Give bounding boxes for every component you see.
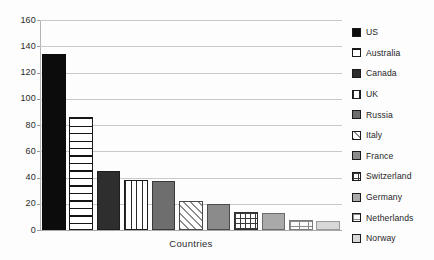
- plot-area: [40, 20, 342, 230]
- bar-canada[interactable]: [97, 171, 121, 230]
- legend-label: Switzerland: [366, 171, 412, 181]
- y-axis-ticks: 160140120100806040200: [0, 0, 36, 260]
- legend-item-uk[interactable]: UK: [352, 84, 434, 105]
- legend-swatch-icon-us: [352, 28, 361, 37]
- bar-netherlands[interactable]: [289, 220, 313, 231]
- legend-item-italy[interactable]: Italy: [352, 125, 434, 146]
- legend-swatch-icon-switzerland: [352, 172, 361, 181]
- legend-item-canada[interactable]: Canada: [352, 63, 434, 84]
- bar-chart: 160140120100806040200 Countries USAustra…: [0, 0, 434, 260]
- y-tick-label-40: 40: [2, 173, 36, 182]
- y-tick-label-160: 160: [2, 16, 36, 25]
- legend-swatch-icon-netherlands: [352, 213, 361, 222]
- x-axis-label: Countries: [40, 238, 342, 249]
- legend-item-france[interactable]: France: [352, 146, 434, 167]
- legend-swatch-icon-germany: [352, 193, 361, 202]
- bars-group: [40, 20, 342, 230]
- legend-swatch-icon-italy: [352, 131, 361, 140]
- legend-label: US: [366, 27, 378, 37]
- legend-item-australia[interactable]: Australia: [352, 43, 434, 64]
- bar-us[interactable]: [42, 54, 66, 230]
- legend-label: Australia: [366, 48, 400, 58]
- legend-item-russia[interactable]: Russia: [352, 104, 434, 125]
- bar-uk[interactable]: [124, 180, 148, 230]
- legend-swatch-icon-norway: [352, 234, 361, 243]
- legend-item-switzerland[interactable]: Switzerland: [352, 166, 434, 187]
- chart-legend: USAustraliaCanadaUKRussiaItalyFranceSwit…: [352, 22, 434, 249]
- legend-swatch-icon-france: [352, 151, 361, 160]
- legend-label: France: [366, 151, 393, 161]
- legend-swatch-icon-australia: [352, 48, 361, 57]
- bar-norway[interactable]: [316, 221, 340, 230]
- legend-item-germany[interactable]: Germany: [352, 187, 434, 208]
- bar-germany[interactable]: [262, 213, 286, 230]
- bar-france[interactable]: [207, 204, 231, 230]
- bar-italy[interactable]: [179, 201, 203, 230]
- y-tick-label-0: 0: [2, 226, 36, 235]
- legend-label: Norway: [366, 233, 396, 243]
- legend-label: Germany: [366, 192, 402, 202]
- legend-item-norway[interactable]: Norway: [352, 228, 434, 249]
- legend-swatch-icon-canada: [352, 69, 361, 78]
- legend-label: UK: [366, 89, 378, 99]
- legend-swatch-icon-russia: [352, 110, 361, 119]
- gridline-0: [40, 230, 342, 231]
- legend-label: Netherlands: [366, 213, 413, 223]
- y-tick-label-80: 80: [2, 121, 36, 130]
- legend-label: Italy: [366, 130, 382, 140]
- legend-item-netherlands[interactable]: Netherlands: [352, 207, 434, 228]
- legend-item-us[interactable]: US: [352, 22, 434, 43]
- bar-switzerland[interactable]: [234, 212, 258, 230]
- y-tick-label-20: 20: [2, 199, 36, 208]
- legend-swatch-icon-uk: [352, 90, 361, 99]
- y-tick-label-140: 140: [2, 42, 36, 51]
- legend-label: Russia: [366, 110, 393, 120]
- y-tick-label-100: 100: [2, 94, 36, 103]
- bar-australia[interactable]: [69, 117, 93, 230]
- legend-label: Canada: [366, 68, 397, 78]
- y-tick-label-60: 60: [2, 147, 36, 156]
- bar-russia[interactable]: [152, 181, 176, 230]
- y-tick-label-120: 120: [2, 68, 36, 77]
